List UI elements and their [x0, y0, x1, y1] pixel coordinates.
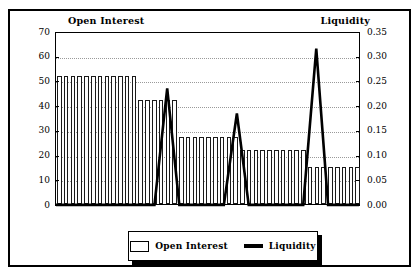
- chart-legend: Open Interest Liquidity: [128, 231, 318, 261]
- left-tick-mark: [55, 57, 59, 58]
- chart-screenshot: Open Interest Liquidity 010203040506070 …: [0, 0, 420, 276]
- left-tick-mark: [55, 180, 59, 181]
- right-tick-label: 0.00: [367, 201, 387, 210]
- legend-label-open-interest: Open Interest: [155, 241, 227, 251]
- right-tick-mark: [356, 81, 360, 82]
- chart-area: Open Interest Liquidity 010203040506070 …: [10, 11, 413, 269]
- legend-item-open-interest: Open Interest: [130, 241, 227, 252]
- right-tick-mark: [356, 106, 360, 107]
- left-tick-label: 0: [18, 201, 50, 210]
- left-tick-mark: [55, 32, 59, 33]
- right-tick-label: 0.35: [367, 28, 387, 37]
- right-axis-title: Liquidity: [321, 15, 370, 26]
- legend-item-liquidity: Liquidity: [244, 241, 316, 251]
- right-tick-mark: [356, 180, 360, 181]
- right-tick-label: 0.05: [367, 176, 387, 185]
- bar-swatch-icon: [130, 241, 149, 252]
- right-tick-mark: [356, 205, 360, 206]
- left-tick-label: 60: [18, 52, 50, 61]
- right-tick-mark: [356, 57, 360, 58]
- line-swatch-icon: [244, 244, 263, 247]
- plot-area: [55, 32, 360, 205]
- left-tick-label: 10: [18, 176, 50, 185]
- right-tick-mark: [356, 32, 360, 33]
- left-tick-label: 50: [18, 77, 50, 86]
- left-tick-mark: [55, 81, 59, 82]
- right-tick-label: 0.30: [367, 52, 387, 61]
- left-tick-label: 30: [18, 126, 50, 135]
- left-tick-mark: [55, 205, 59, 206]
- legend-label-liquidity: Liquidity: [269, 241, 316, 251]
- right-tick-label: 0.25: [367, 77, 387, 86]
- left-tick-label: 70: [18, 28, 50, 37]
- right-tick-label: 0.15: [367, 126, 387, 135]
- left-tick-mark: [55, 156, 59, 157]
- line-series-liquidity: [56, 33, 359, 205]
- left-tick-mark: [55, 131, 59, 132]
- right-tick-label: 0.10: [367, 151, 387, 160]
- left-axis-title: Open Interest: [68, 15, 144, 26]
- left-tick-label: 40: [18, 102, 50, 111]
- right-tick-label: 0.20: [367, 102, 387, 111]
- right-tick-mark: [356, 156, 360, 157]
- left-tick-mark: [55, 106, 59, 107]
- chart-outer-frame: Open Interest Liquidity 010203040506070 …: [8, 9, 411, 267]
- left-tick-label: 20: [18, 151, 50, 160]
- right-tick-mark: [356, 131, 360, 132]
